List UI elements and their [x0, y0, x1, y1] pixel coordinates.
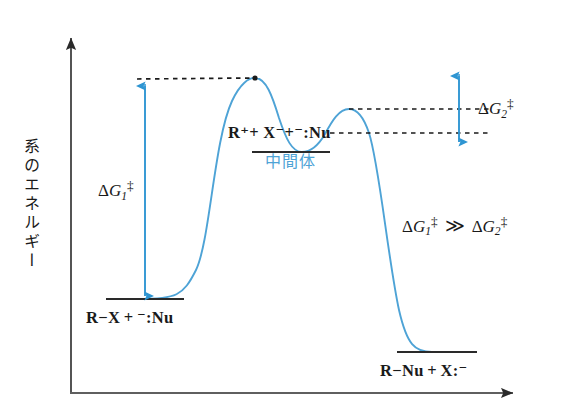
intermediate-label: R⁺+ X⁻+⁻:Nu [228, 123, 331, 143]
energy-diagram: 系のエネルギー ΔG1‡ ΔG2‡ ΔG1‡≫ΔG2‡ R−X + ⁻:Nu R… [0, 0, 570, 406]
intermediate-jp-label: 中間体 [265, 148, 316, 172]
delta-g1-label: ΔG1‡ [98, 178, 134, 203]
diagram-canvas [0, 0, 570, 406]
product-label: R−Nu + X:⁻ [380, 361, 468, 381]
delta-g2-label: ΔG2‡ [478, 96, 514, 121]
reactant-label: R−X + ⁻:Nu [86, 308, 174, 328]
ts1-dashed-guide [137, 75, 258, 80]
y-axis-label: 系のエネルギー [18, 138, 42, 271]
much-greater-than-icon: ≫ [438, 215, 472, 236]
comparison-statement: ΔG1‡≫ΔG2‡ [402, 214, 507, 239]
